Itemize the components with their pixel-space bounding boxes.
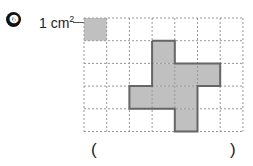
answer-close-paren: ) <box>230 140 236 160</box>
grid-figure <box>0 0 253 166</box>
answer-open-paren: ( <box>91 140 97 160</box>
